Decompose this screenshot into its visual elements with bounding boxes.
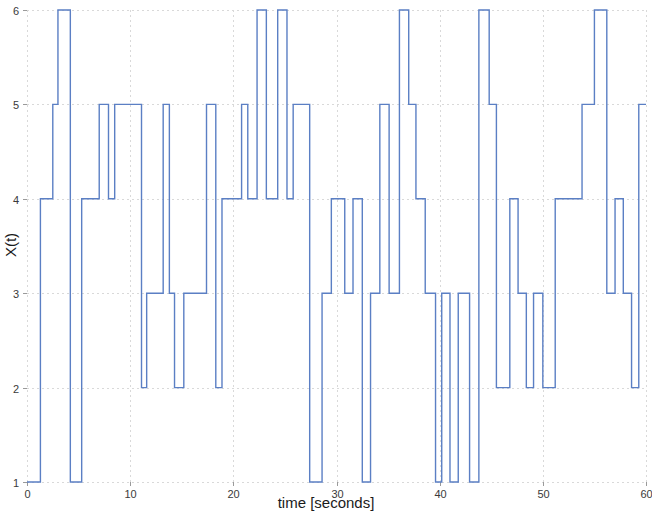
axis-tick-labels: 0102030405060123456: [13, 5, 652, 501]
series-line-xt: [27, 10, 646, 482]
axis-tickmarks: [23, 11, 647, 487]
x-tick-label: 40: [434, 488, 446, 500]
gridlines: [27, 10, 647, 483]
y-tick-label: 4: [13, 194, 19, 206]
step-plot: 0102030405060123456 time [seconds] X(t): [0, 0, 652, 515]
chart-figure: 0102030405060123456 time [seconds] X(t): [0, 0, 652, 515]
y-axis-title: X(t): [2, 233, 19, 257]
x-tick-label: 0: [24, 488, 30, 500]
y-tick-label: 6: [13, 5, 19, 17]
x-tick-label: 20: [227, 488, 239, 500]
x-tick-label: 60: [640, 488, 652, 500]
x-axis-title: time [seconds]: [278, 494, 375, 511]
x-tick-label: 10: [124, 488, 136, 500]
y-tick-label: 5: [13, 99, 19, 111]
y-tick-label: 2: [13, 383, 19, 395]
x-tick-label: 50: [537, 488, 549, 500]
y-tick-label: 3: [13, 288, 19, 300]
y-tick-label: 1: [13, 477, 19, 489]
